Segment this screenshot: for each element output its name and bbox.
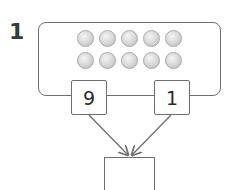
whole-answer-box[interactable] (104, 157, 155, 190)
arrow-left-icon (89, 115, 128, 155)
arrow-right-icon (132, 115, 171, 155)
part-box-right[interactable]: 1 (154, 80, 190, 115)
part-box-left[interactable]: 9 (71, 80, 107, 115)
